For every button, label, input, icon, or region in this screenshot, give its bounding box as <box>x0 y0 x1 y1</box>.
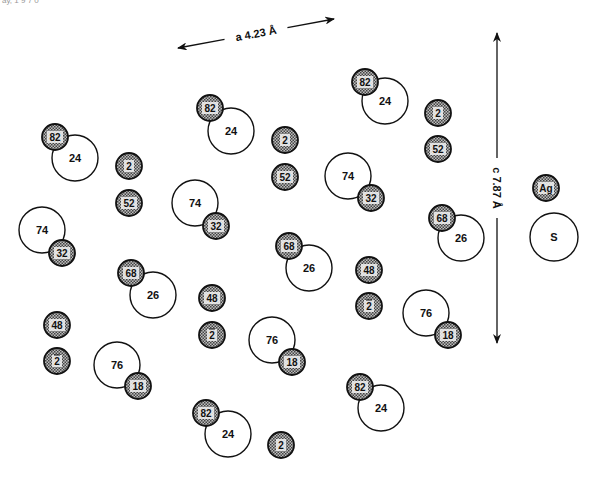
atom-label: 2 <box>54 356 60 367</box>
atom-label: 24 <box>375 402 388 414</box>
atom-label: 32 <box>365 193 377 204</box>
atom-label: 68 <box>436 213 448 224</box>
atom-label: 82 <box>354 382 366 393</box>
silver-atom: 2 <box>272 127 298 153</box>
atom-label: 52 <box>279 172 291 183</box>
atom-label: 26 <box>147 289 159 301</box>
legend-s-swatch: S <box>530 213 578 261</box>
atom-label: 48 <box>363 265 375 276</box>
atom-label: 76 <box>111 359 123 371</box>
silver-atom: 68 <box>429 205 455 231</box>
atom-label: 18 <box>132 381 144 392</box>
atom-label: 82 <box>200 408 212 419</box>
silver-atom: 82 <box>193 400 219 426</box>
atom-label: 32 <box>56 248 68 259</box>
silver-atom: 32 <box>49 240 75 266</box>
silver-atom: 82 <box>42 124 68 150</box>
atom-label: 2 <box>282 135 288 146</box>
silver-atom: 82 <box>352 69 378 95</box>
atom-label: 2 <box>126 161 132 172</box>
silver-atom: 82 <box>197 95 223 121</box>
atom-label: 24 <box>379 95 392 107</box>
atom-label: 52 <box>123 198 135 209</box>
atom-label: 48 <box>51 320 63 331</box>
atom-label: 68 <box>283 241 295 252</box>
atom-label: 74 <box>36 224 49 236</box>
silver-atom: 48 <box>356 257 382 283</box>
atom-label: 82 <box>49 132 61 143</box>
lattice-axis-c: c 7.87 Å <box>491 33 503 343</box>
atom-label: 24 <box>225 125 238 137</box>
atom-label: 2 <box>209 330 215 341</box>
atom-label: 26 <box>303 262 315 274</box>
atom-label: 18 <box>442 330 454 341</box>
silver-atom: 2 <box>356 293 382 319</box>
axis-a-label: a 4.23 Å <box>234 24 277 43</box>
silver-atom: 2 <box>199 322 225 348</box>
atom-label: Ag <box>539 183 552 194</box>
crystal-structure-diagram: a 4.23 Å c 7.87 Å 2424247474742626267676… <box>0 0 595 479</box>
axis-c-label: c 7.87 Å <box>491 167 503 209</box>
atom-label: 18 <box>286 357 298 368</box>
atom-label: 2 <box>435 108 441 119</box>
lattice-axis-a: a 4.23 Å <box>178 19 334 48</box>
silver-atom: 2 <box>116 153 142 179</box>
atom-label: S <box>550 231 557 243</box>
atom-label: 24 <box>69 152 82 164</box>
atom-label: 24 <box>222 428 235 440</box>
silver-atom: 18 <box>279 349 305 375</box>
silver-atom: 82 <box>347 374 373 400</box>
atom-label: 82 <box>359 77 371 88</box>
atom-label: 68 <box>125 268 137 279</box>
silver-atom: 68 <box>276 233 302 259</box>
sulfur-atoms-layer: 2424247474742626267676762424 <box>19 78 484 457</box>
silver-atom: 48 <box>44 312 70 338</box>
silver-atom: 48 <box>199 285 225 311</box>
atom-label: 48 <box>206 293 218 304</box>
atom-legend: AgS <box>530 175 578 261</box>
silver-atom: 18 <box>125 373 151 399</box>
silver-atom: 2 <box>268 432 294 458</box>
atom-label: 74 <box>342 170 355 182</box>
atom-label: 76 <box>420 307 432 319</box>
atom-label: 82 <box>204 103 216 114</box>
silver-atom: 52 <box>116 190 142 216</box>
silver-atom: 32 <box>203 213 229 239</box>
atom-label: 2 <box>366 301 372 312</box>
atom-label: 2 <box>278 440 284 451</box>
atom-label: 76 <box>266 334 278 346</box>
silver-atom: 18 <box>435 322 461 348</box>
atom-label: 74 <box>189 197 202 209</box>
silver-atom: 2 <box>425 100 451 126</box>
legend-ag-swatch: Ag <box>533 175 559 201</box>
atom-label: 32 <box>210 221 222 232</box>
silver-atom: 2 <box>44 348 70 374</box>
atom-label: 26 <box>455 232 467 244</box>
silver-atom: 52 <box>272 164 298 190</box>
atom-label: 52 <box>432 144 444 155</box>
silver-atom: 32 <box>358 185 384 211</box>
silver-atom: 68 <box>118 260 144 286</box>
silver-atom: 52 <box>425 136 451 162</box>
